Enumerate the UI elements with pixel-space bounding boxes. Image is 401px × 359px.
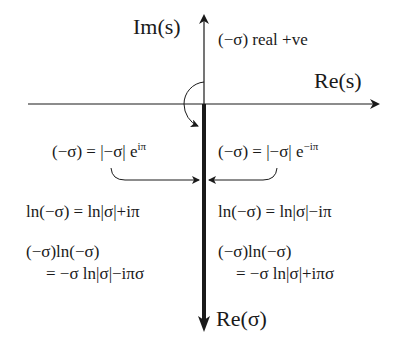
top-note: (−σ) real +ve	[218, 30, 308, 50]
right-product-line2: = −σ ln|σ|+iπσ	[236, 264, 334, 284]
right-approach-arrow	[209, 168, 277, 180]
left-polar-form: (−σ) = |−σ| eiπ	[52, 140, 146, 162]
left-log-formula: ln(−σ) = ln|σ|+iπ	[26, 202, 139, 222]
right-polar-form: (−σ) = |−σ| e−iπ	[218, 140, 318, 162]
right-product-line1: (−σ)ln(−σ)	[218, 242, 291, 262]
real-axis-label: Re(s)	[314, 68, 362, 94]
right-log-formula: ln(−σ) = ln|σ|−iπ	[218, 202, 331, 222]
imaginary-axis-label: Im(s)	[133, 14, 181, 40]
diagram-canvas	[0, 0, 401, 359]
left-product-line2: = −σ ln|σ|−iπσ	[46, 264, 144, 284]
branch-axis-label: Re(σ)	[216, 306, 267, 332]
left-approach-arrow	[111, 168, 199, 180]
left-product-line1: (−σ)ln(−σ)	[26, 242, 99, 262]
